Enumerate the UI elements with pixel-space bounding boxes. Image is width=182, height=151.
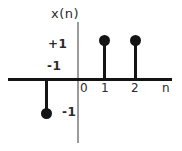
stem-marker-n-1 — [99, 35, 110, 46]
x-tick-label-1: 1 — [101, 82, 109, 94]
stem-marker-n-minus-1 — [41, 108, 52, 119]
x-tick-label-0: 0 — [80, 82, 88, 94]
stem-line-n-1 — [103, 44, 106, 79]
x-tick-label-negative-one: -1 — [47, 60, 61, 73]
vertical-axis — [77, 22, 79, 143]
stem-marker-n-2 — [130, 35, 141, 46]
horizontal-axis — [8, 78, 172, 81]
amplitude-label-positive-one: +1 — [48, 38, 67, 51]
x-tick-label-2: 2 — [131, 82, 139, 94]
vertical-axis-label: x(n) — [51, 7, 79, 20]
discrete-signal-stem-plot: x(n) +1 -1 -1 0 1 2 n — [0, 0, 182, 151]
amplitude-label-negative-one: -1 — [62, 106, 76, 119]
stem-line-n-2 — [134, 44, 137, 79]
horizontal-axis-label: n — [162, 82, 170, 94]
